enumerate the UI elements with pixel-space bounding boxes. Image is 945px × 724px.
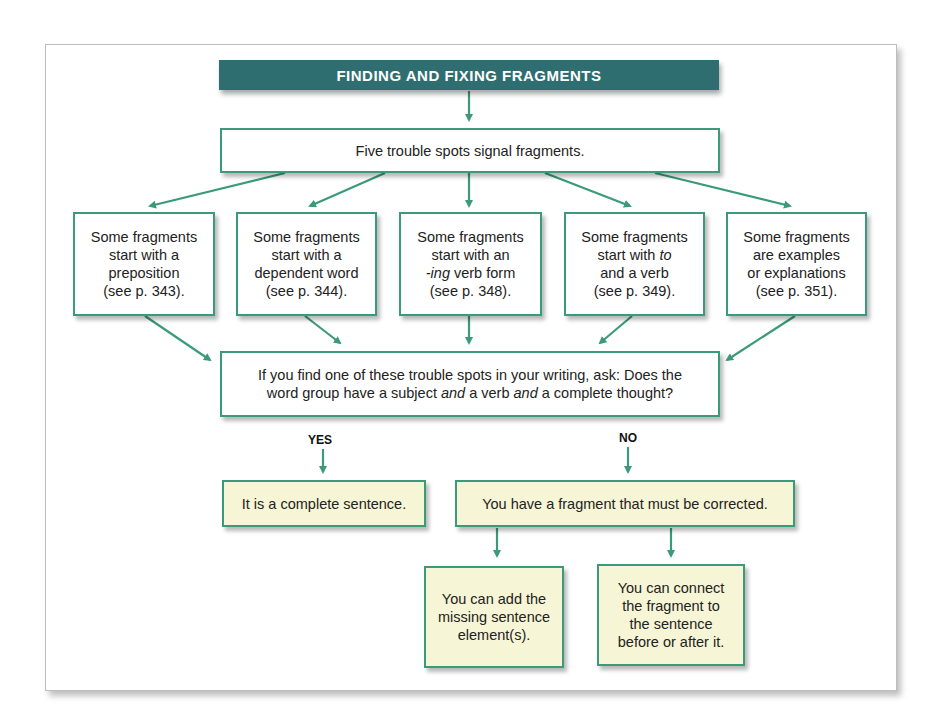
question-box: If you find one of these trouble spots i… [220,351,720,417]
trouble-spots-box: Five trouble spots signal fragments. [220,128,720,173]
trouble-spot-examples: Some fragmentsare examplesor explanation… [726,212,867,316]
diagram-title: FINDING AND FIXING FRAGMENTS [219,60,719,90]
fix-add-element-box: You can add themissing sentenceelement(s… [424,566,564,668]
trouble-spot-ing-verb: Some fragmentsstart with an-ing verb for… [399,212,542,316]
complete-sentence-box: It is a complete sentence. [222,480,426,527]
yes-label: YES [308,433,332,447]
trouble-spot-to-verb: Some fragmentsstart with toand a verb(se… [564,212,705,316]
no-label: NO [619,431,637,445]
trouble-spot-preposition: Some fragmentsstart with apreposition(se… [73,212,215,316]
trouble-spot-dependent-word: Some fragmentsstart with adependent word… [236,212,377,316]
fragment-box: You have a fragment that must be correct… [455,480,795,527]
fix-connect-box: You can connectthe fragment tothe senten… [597,564,745,666]
